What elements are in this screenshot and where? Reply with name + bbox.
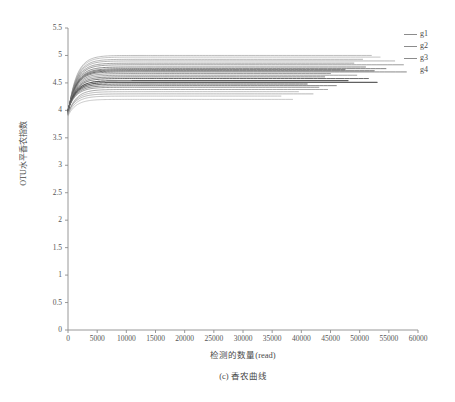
- y-tick-label: 0: [28, 326, 62, 334]
- y-tick-label: 2.5: [28, 189, 62, 197]
- shannon-curve: [68, 99, 293, 115]
- y-tick-label: 3: [28, 161, 62, 169]
- shannon-curve: [68, 79, 368, 111]
- y-tick-label: 2: [28, 216, 62, 224]
- shannon-curve: [68, 87, 319, 110]
- shannon-curve: [68, 96, 281, 115]
- legend-label: g4: [420, 66, 428, 74]
- y-tick-label: 5: [28, 51, 62, 59]
- legend: g1g2g3g4: [404, 28, 454, 76]
- x-axis-title: 检测的数量(read): [68, 348, 418, 360]
- legend-item-g3[interactable]: g3: [404, 52, 454, 64]
- legend-label: g1: [420, 30, 428, 38]
- legend-line-icon: [404, 58, 417, 59]
- y-tick-label: 1: [28, 271, 62, 279]
- shannon-curve: [68, 55, 371, 114]
- legend-line-icon: [404, 46, 417, 47]
- shannon-curve: [68, 92, 298, 114]
- legend-item-g1[interactable]: g1: [404, 28, 454, 40]
- y-tick-label: 4.5: [28, 79, 62, 87]
- legend-item-g2[interactable]: g2: [404, 40, 454, 52]
- shannon-curves: [68, 55, 406, 115]
- shannon-curve: [68, 90, 328, 115]
- legend-line-icon: [404, 34, 417, 35]
- y-tick-label: 1.5: [28, 244, 62, 252]
- shannon-curve: [68, 81, 348, 111]
- legend-line-icon: [404, 70, 417, 71]
- shannon-curve: [68, 70, 345, 112]
- legend-label: g2: [420, 42, 428, 50]
- legend-item-g4[interactable]: g4: [404, 64, 454, 76]
- y-tick-label: 0.5: [28, 299, 62, 307]
- legend-label: g3: [420, 54, 428, 62]
- y-tick-label: 4: [28, 106, 62, 114]
- figure-caption: (c) 香农曲线: [68, 369, 418, 381]
- x-axis-tick-marks: [68, 330, 418, 333]
- shannon-curve: [68, 94, 313, 113]
- y-axis-title: OTU水平香农指数: [17, 94, 28, 214]
- y-tick-label: 3.5: [28, 134, 62, 142]
- x-tick-label: 60000: [396, 335, 440, 343]
- y-tick-label: 5.5: [28, 24, 62, 32]
- shannon-rarefaction-figure: 00.511.522.533.544.555.5 050001000015000…: [0, 0, 455, 402]
